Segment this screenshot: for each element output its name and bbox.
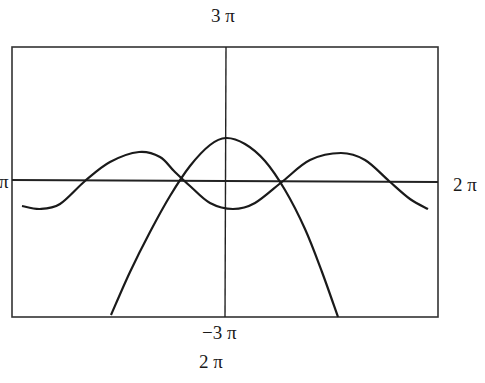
top-label: 3 π [211, 6, 235, 25]
right-label: 2 π [453, 175, 477, 194]
bottom-label: 2 π [199, 352, 223, 371]
y-axis [225, 47, 226, 317]
plot-area [0, 0, 485, 383]
bottom-tick-label: −3 π [202, 323, 237, 342]
left-label: −2 π [0, 172, 9, 191]
